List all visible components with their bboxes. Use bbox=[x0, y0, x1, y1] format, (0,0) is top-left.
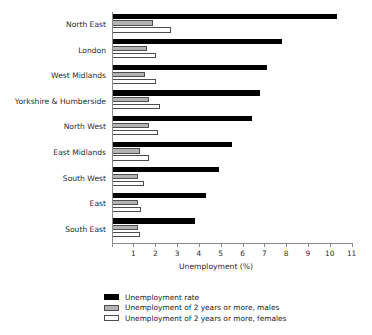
legend-label: Unemployment rate bbox=[125, 293, 199, 302]
legend-label: Unemployment of 2 years or more, females bbox=[125, 314, 286, 323]
bar-females bbox=[112, 53, 156, 58]
bar-males bbox=[112, 20, 153, 25]
bar-rate bbox=[112, 142, 232, 147]
category-label: Yorkshire & Humberside bbox=[0, 89, 110, 115]
bar-males bbox=[112, 46, 147, 51]
bar-group bbox=[112, 114, 352, 140]
x-tick bbox=[221, 243, 222, 247]
x-tick bbox=[133, 243, 134, 247]
x-tick bbox=[264, 243, 265, 247]
x-tick bbox=[112, 243, 113, 247]
bar-rate bbox=[112, 167, 219, 172]
bar-rate bbox=[112, 39, 282, 44]
bar-rate bbox=[112, 90, 260, 95]
bars-area bbox=[112, 12, 352, 242]
category-label: West Midlands bbox=[0, 63, 110, 89]
bar-group bbox=[112, 38, 352, 64]
bar-females bbox=[112, 79, 156, 84]
x-tick-label: 2 bbox=[153, 249, 158, 258]
plot-area: North EastLondonWest MidlandsYorkshire &… bbox=[0, 0, 372, 272]
category-label: London bbox=[0, 38, 110, 64]
x-tick-label: 9 bbox=[306, 249, 311, 258]
y-axis-line bbox=[112, 12, 113, 243]
category-label: South West bbox=[0, 166, 110, 192]
bar-group bbox=[112, 89, 352, 115]
x-tick-label: 4 bbox=[197, 249, 202, 258]
bar-males bbox=[112, 97, 149, 102]
x-tick-label: 7 bbox=[262, 249, 267, 258]
x-tick bbox=[308, 243, 309, 247]
x-tick-label: 10 bbox=[325, 249, 334, 258]
bar-males bbox=[112, 174, 138, 179]
bar-females bbox=[112, 181, 144, 186]
bar-females bbox=[112, 155, 149, 160]
bar-rate bbox=[112, 193, 206, 198]
bar-males bbox=[112, 225, 138, 230]
x-tick bbox=[155, 243, 156, 247]
category-axis-labels: North EastLondonWest MidlandsYorkshire &… bbox=[0, 12, 110, 242]
bar-females bbox=[112, 27, 171, 32]
bar-rate bbox=[112, 218, 195, 223]
x-tick bbox=[286, 243, 287, 247]
legend-swatch-females bbox=[104, 315, 119, 321]
legend-swatch-rate bbox=[104, 294, 119, 300]
category-label: East Midlands bbox=[0, 140, 110, 166]
x-tick-label: 3 bbox=[175, 249, 180, 258]
x-tick-label: 1 bbox=[131, 249, 136, 258]
legend-label: Unemployment of 2 years or more, males bbox=[125, 303, 279, 312]
x-tick bbox=[352, 243, 353, 247]
bar-rate bbox=[112, 65, 267, 70]
category-label: North West bbox=[0, 114, 110, 140]
legend-swatch-males bbox=[104, 305, 119, 311]
legend-item: Unemployment of 2 years or more, females bbox=[104, 313, 286, 324]
x-axis-line bbox=[112, 243, 352, 244]
category-label: North East bbox=[0, 12, 110, 38]
bar-females bbox=[112, 104, 160, 109]
bar-group bbox=[112, 191, 352, 217]
x-tick-label: 11 bbox=[347, 249, 356, 258]
x-tick-label: 6 bbox=[240, 249, 245, 258]
x-axis-title: Unemployment (%) bbox=[0, 262, 372, 271]
bar-females bbox=[112, 207, 141, 212]
bar-males bbox=[112, 123, 149, 128]
x-tick bbox=[177, 243, 178, 247]
x-tick-label: 5 bbox=[218, 249, 223, 258]
x-tick-label: 8 bbox=[284, 249, 289, 258]
legend-item: Unemployment rate bbox=[104, 292, 286, 303]
bar-males bbox=[112, 72, 145, 77]
bar-rate bbox=[112, 116, 252, 121]
bar-females bbox=[112, 130, 158, 135]
x-tick bbox=[199, 243, 200, 247]
chart-legend: Unemployment rateUnemployment of 2 years… bbox=[104, 292, 286, 324]
bar-females bbox=[112, 232, 140, 237]
bar-group bbox=[112, 63, 352, 89]
x-axis-title-text: Unemployment (%) bbox=[179, 262, 253, 271]
bar-group bbox=[112, 140, 352, 166]
bar-group bbox=[112, 12, 352, 38]
bar-group bbox=[112, 217, 352, 243]
category-label: South East bbox=[0, 217, 110, 243]
unemployment-bar-chart: North EastLondonWest MidlandsYorkshire &… bbox=[0, 0, 372, 335]
legend-item: Unemployment of 2 years or more, males bbox=[104, 303, 286, 314]
bar-males bbox=[112, 200, 138, 205]
bar-males bbox=[112, 148, 140, 153]
bar-group bbox=[112, 166, 352, 192]
x-tick bbox=[243, 243, 244, 247]
bar-rate bbox=[112, 14, 337, 19]
x-tick bbox=[330, 243, 331, 247]
category-label: East bbox=[0, 191, 110, 217]
